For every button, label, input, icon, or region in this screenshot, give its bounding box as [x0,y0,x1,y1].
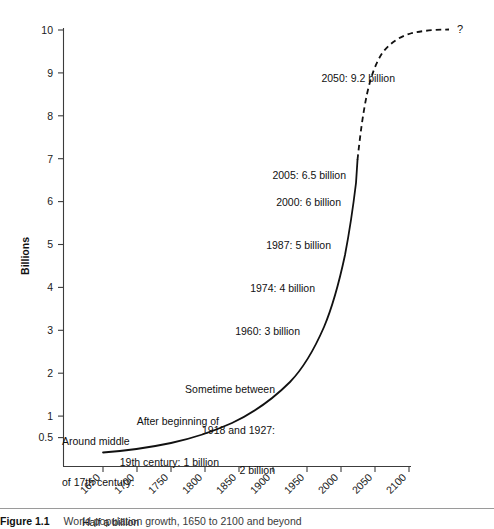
annotation-five-billion: 1987: 5 billion [186,239,331,253]
annotation-two-billion-line-2: 1918 and 1927: [130,424,275,438]
annotation-three-billion: 1960: 3 billion [155,325,300,339]
x-label-2100: 2100 [383,471,408,496]
y-label-4: 4 [47,281,53,293]
annotation-four-billion: 1974: 4 billion [170,282,315,296]
caption-divider [0,508,494,509]
y-axis-title: Billions [19,237,31,275]
annotation-six-point-five-billion: 2005: 6.5 billion [196,169,346,183]
y-label-5: 5 [47,238,53,250]
y-label-10: 10 [41,24,53,36]
y-label-3: 3 [47,324,53,336]
annotation-nine-point-two-billion: 2050: 9.2 billion [250,72,395,86]
y-axis-tick-labels: 10 9 8 7 6 5 4 3 2 1 0.5 [38,24,53,444]
y-axis-ticks [58,30,64,438]
x-label-2000: 2000 [315,471,340,496]
x-label-1950: 1950 [281,471,306,496]
population-curve-projected [358,30,450,161]
y-label-0-5: 0.5 [38,431,53,443]
figure-caption-label: Figure 1.1 [0,515,50,527]
uncertainty-question-mark: ? [457,23,463,35]
y-label-9: 9 [47,67,53,79]
annotation-six-billion: 2000: 6 billion [196,196,341,210]
annotation-two-billion-line-1: Sometime between [130,383,275,397]
figure-caption: Figure 1.1World population growth, 1650 … [0,515,494,527]
figure-container: 10 9 8 7 6 5 4 3 2 1 0.5 Billions [0,0,494,529]
annotation-two-billion: Sometime between 1918 and 1927: 2 billio… [130,356,275,505]
figure-caption-text: World population growth, 1650 to 2100 an… [64,515,302,527]
x-label-2050: 2050 [349,471,374,496]
y-label-6: 6 [47,195,53,207]
y-label-7: 7 [47,153,53,165]
y-label-8: 8 [47,110,53,122]
y-label-1: 1 [47,410,53,422]
y-label-2: 2 [47,367,53,379]
annotation-two-billion-line-3: 2 billion [130,464,275,478]
